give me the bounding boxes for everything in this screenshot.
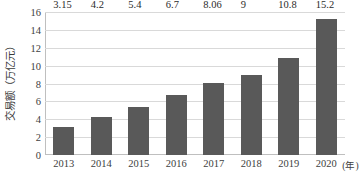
- y-axis-tick-labels: 0246810121416: [18, 12, 44, 155]
- y-axis-tick: 12: [31, 42, 42, 53]
- bar[interactable]: 8.06: [203, 83, 224, 155]
- bar[interactable]: 5.4: [128, 107, 149, 155]
- x-axis-tick: 2016: [166, 158, 187, 169]
- bar-value-label: 9: [241, 0, 246, 11]
- bar-column[interactable]: 3.15: [53, 12, 74, 155]
- x-axis-tick: 2013: [53, 158, 74, 169]
- bar[interactable]: 15.2: [316, 19, 337, 155]
- bar[interactable]: 10.8: [278, 58, 299, 155]
- bar[interactable]: 9: [241, 75, 262, 155]
- y-axis-title: 交易额（万亿元）: [0, 0, 18, 160]
- bar[interactable]: 3.15: [53, 127, 74, 155]
- x-axis-tick: 2019: [278, 158, 299, 169]
- y-axis-title-text: 交易额（万亿元）: [2, 40, 17, 120]
- bar-value-label: 4.2: [91, 0, 104, 11]
- bar-column[interactable]: 10.8: [278, 12, 299, 155]
- plot-area: 3.154.25.46.78.06910.815.2: [45, 12, 345, 155]
- x-axis-tick: 2018: [241, 158, 262, 169]
- y-axis-tick: 16: [31, 7, 42, 18]
- bar-series: 3.154.25.46.78.06910.815.2: [45, 12, 345, 155]
- bar-column[interactable]: 4.2: [91, 12, 112, 155]
- bar-value-label: 10.8: [278, 0, 296, 11]
- x-axis-tick: 2014: [91, 158, 112, 169]
- bar-value-label: 15.2: [316, 0, 334, 11]
- bar-column[interactable]: 8.06: [203, 12, 224, 155]
- x-axis-unit-label: (年): [342, 158, 358, 172]
- y-axis-tick: 8: [36, 78, 41, 89]
- bar[interactable]: 4.2: [91, 117, 112, 155]
- bar-value-label: 3.15: [53, 0, 71, 11]
- bar-column[interactable]: 15.2: [316, 12, 337, 155]
- x-axis-tick: 2020: [316, 158, 337, 169]
- x-axis-tick: 2015: [128, 158, 149, 169]
- y-axis-tick: 10: [31, 60, 42, 71]
- y-axis-tick: 2: [36, 132, 41, 143]
- bar-value-label: 5.4: [128, 0, 141, 11]
- bar-value-label: 6.7: [166, 0, 179, 11]
- x-axis-tick: 2017: [203, 158, 224, 169]
- bar-column[interactable]: 9: [241, 12, 262, 155]
- y-axis-tick: 14: [31, 24, 42, 35]
- y-axis-tick: 0: [36, 150, 41, 161]
- y-axis-tick: 6: [36, 96, 41, 107]
- bar-column[interactable]: 5.4: [128, 12, 149, 155]
- y-axis-tick: 4: [36, 114, 41, 125]
- bar[interactable]: 6.7: [166, 95, 187, 155]
- bar-column[interactable]: 6.7: [166, 12, 187, 155]
- x-axis-tick-labels: 20132014201520162017201820192020(年): [45, 158, 345, 176]
- bar-value-label: 8.06: [203, 0, 221, 11]
